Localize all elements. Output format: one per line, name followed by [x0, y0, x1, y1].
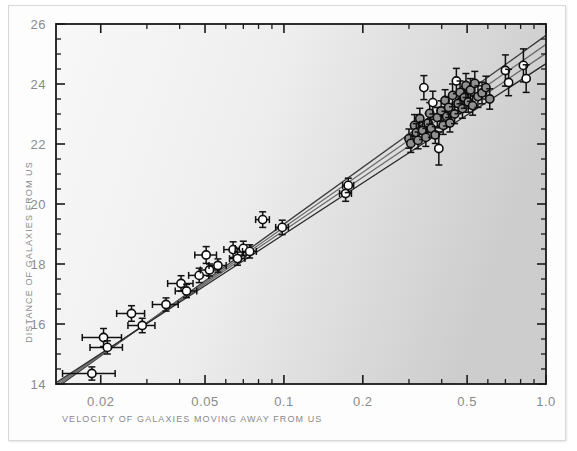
- figure-page: 0.020.050.10.20.51.014161820222426 DISTA…: [0, 0, 577, 451]
- y-tick-label: 24: [31, 77, 46, 92]
- x-tick-label: 0.2: [353, 394, 373, 409]
- x-axis-title: VELOCITY OF GALAXIES MOVING AWAY FROM US: [62, 414, 322, 424]
- x-tick-label: 0.02: [87, 394, 114, 409]
- y-tick-label: 14: [31, 377, 46, 392]
- x-tick-label: 0.5: [457, 394, 477, 409]
- y-tick-label: 26: [31, 17, 46, 32]
- x-tick-label: 0.05: [191, 394, 218, 409]
- y-tick-label: 22: [31, 137, 46, 152]
- x-tick-label: 0.1: [274, 394, 294, 409]
- x-tick-label: 1.0: [536, 394, 556, 409]
- hubble-diagram-svg: 0.020.050.10.20.51.014161820222426: [0, 0, 577, 451]
- y-axis-title: DISTANCE OF GALAXIES FROM US: [24, 152, 34, 352]
